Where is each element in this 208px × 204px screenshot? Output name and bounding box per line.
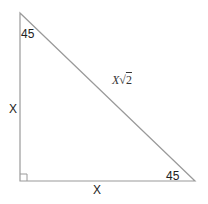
hypotenuse-label: X√2 — [112, 74, 132, 86]
triangle — [20, 13, 195, 181]
top-angle-label: 45 — [21, 28, 34, 40]
right-angle-marker — [20, 174, 27, 181]
bottom-right-angle-label: 45 — [166, 170, 179, 182]
radicand: 2 — [126, 73, 132, 87]
left-side-label: X — [9, 103, 17, 115]
radical-sign: √ — [119, 73, 126, 87]
bottom-side-label: X — [93, 184, 101, 196]
